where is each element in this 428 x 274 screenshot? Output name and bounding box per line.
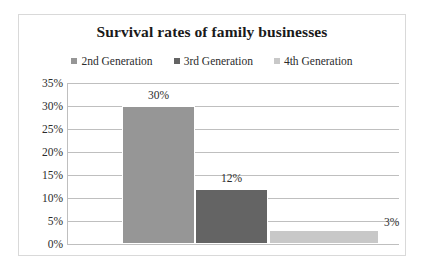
gridline (67, 106, 399, 107)
bar-value-label: 3% (384, 216, 399, 228)
bar[interactable] (122, 106, 195, 244)
plot-wrapper: 35% 30% 25% 20% 15% 10% 5% 0% 30%12%3% (19, 15, 407, 257)
bar[interactable] (195, 189, 268, 244)
gridline (67, 129, 399, 130)
bar-value-label: 30% (122, 89, 195, 101)
y-axis-tick-label: 15% (23, 169, 63, 181)
y-axis-tick-label: 0% (23, 238, 63, 250)
gridline (67, 152, 399, 153)
y-axis-tick-label: 35% (23, 77, 63, 89)
y-axis-tick-label: 30% (23, 100, 63, 112)
y-axis-tick-label: 5% (23, 215, 63, 227)
y-axis-tick-label: 25% (23, 123, 63, 135)
bar[interactable] (269, 230, 379, 244)
y-axis: 35% 30% 25% 20% 15% 10% 5% 0% (23, 15, 63, 257)
gridline (67, 244, 399, 245)
y-axis-tick-label: 20% (23, 146, 63, 158)
bar-value-label: 12% (195, 172, 268, 184)
plot-area: 30%12%3% (67, 15, 399, 257)
chart-container: Survival rates of family businesses 2nd … (18, 14, 406, 256)
y-axis-tick-label: 10% (23, 192, 63, 204)
gridline (67, 83, 399, 84)
